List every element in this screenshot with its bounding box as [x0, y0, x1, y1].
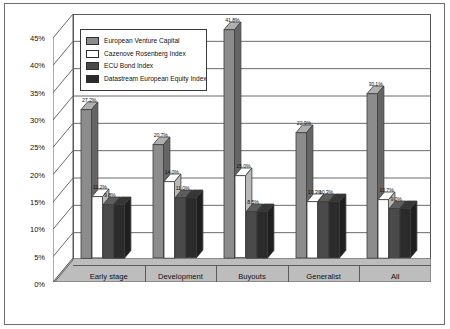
bar-value-label: 15.0%	[236, 163, 250, 169]
y-axis-tick: 45%	[5, 34, 45, 43]
bar	[329, 204, 340, 260]
legend-label: European Venture Capital	[104, 37, 180, 45]
x-axis-category-label: Generalist	[288, 272, 360, 281]
x-axis-separator	[359, 266, 360, 282]
legend-swatch-icon	[86, 62, 99, 70]
legend-item: Cazenove Rosenberg Index	[86, 48, 201, 59]
bar	[378, 202, 389, 260]
bar-value-label: 22.9%	[297, 120, 311, 126]
bar-value-label: 30.1%	[368, 81, 382, 87]
bar	[257, 214, 268, 260]
x-axis-separator	[288, 266, 289, 282]
legend-swatch-icon	[86, 75, 99, 83]
bar	[224, 32, 235, 261]
legend-swatch-icon	[86, 50, 99, 58]
x-axis-category-label: Buyouts	[216, 272, 288, 281]
left-wall	[53, 14, 73, 260]
x-axis-separator	[145, 266, 146, 282]
y-axis-tick: 5%	[5, 252, 45, 261]
y-axis-tick: 30%	[5, 116, 45, 125]
y-axis-tick: 10%	[5, 225, 45, 234]
legend-item: European Venture Capital	[86, 36, 201, 47]
bar	[114, 206, 125, 260]
x-axis-category-label: Early stage	[73, 272, 145, 281]
chart-frame: 0%5%10%15%20%25%30%35%40%45% 27.2% 11.2%…	[4, 3, 445, 325]
bar	[400, 211, 411, 260]
bar	[186, 200, 197, 260]
x-axis-separator	[216, 266, 217, 282]
chart-legend: European Venture Capital Cazenove Rosenb…	[80, 29, 207, 91]
y-axis-tick: 35%	[5, 88, 45, 97]
y-axis-tick: 25%	[5, 143, 45, 152]
y-axis-tick: 40%	[5, 61, 45, 70]
bar-value-label: 20.7%	[154, 132, 168, 138]
bar-value-label: 41.8%	[225, 17, 239, 23]
bar	[318, 204, 329, 260]
bar	[153, 147, 164, 260]
legend-item: ECU Bond Index	[86, 61, 201, 72]
bar	[175, 200, 186, 260]
x-axis-line	[73, 265, 431, 266]
bar-value-label: 27.2%	[82, 97, 96, 103]
bar	[103, 206, 114, 260]
bar-value-label: 10.7%	[379, 187, 393, 193]
bar-value-label: 14.0%	[165, 169, 179, 175]
bar	[164, 183, 175, 260]
bar-value-label: 11.2%	[93, 184, 107, 190]
y-axis-tick: 15%	[5, 198, 45, 207]
legend-swatch-icon	[86, 37, 99, 45]
bar	[81, 111, 92, 260]
bar	[389, 211, 400, 260]
x-axis-category-label: Development	[145, 272, 217, 281]
y-axis-tick: 0%	[5, 280, 45, 289]
bar	[92, 199, 103, 260]
legend-label: ECU Bond Index	[104, 62, 153, 70]
legend-label: Cazenove Rosenberg Index	[104, 50, 186, 58]
legend-item: Datastream European Equity Index	[86, 73, 201, 84]
bar	[307, 204, 318, 260]
bar	[296, 135, 307, 260]
legend-label: Datastream European Equity Index	[104, 75, 207, 83]
y-axis-tick: 20%	[5, 170, 45, 179]
x-axis: Early stageDevelopmentBuyoutsGeneralistA…	[73, 260, 431, 282]
bar	[235, 178, 246, 260]
x-axis-category-label: All	[359, 272, 431, 281]
bar	[246, 214, 257, 260]
bar	[367, 95, 378, 260]
